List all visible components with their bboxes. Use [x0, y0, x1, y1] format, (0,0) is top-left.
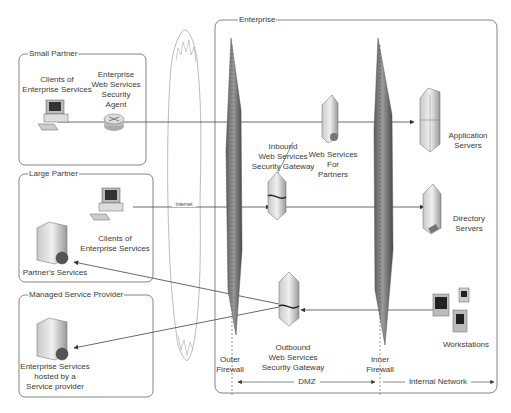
label-partners-services: Partner's Services: [20, 268, 90, 278]
group-title-managed-service-provider: Managed Service Provider: [28, 290, 124, 300]
desktop-computer-icon: [90, 188, 123, 220]
group-title-enterprise: Enterprise: [238, 15, 276, 25]
desktop-computer-icon: [38, 100, 68, 130]
edge-label-internet: Internet: [172, 201, 196, 207]
label-workstations: Workstations: [436, 340, 496, 350]
link-outbound-gw-to-msp: [74, 307, 279, 348]
label-inner-firewall: Inner Firewall: [362, 355, 398, 375]
security-gateway-icon: [268, 172, 286, 220]
label-small-partner-clients: Clients of Enterprise Services: [22, 75, 92, 95]
workstation-icon: [433, 288, 469, 332]
group-box-enterprise: [215, 20, 497, 393]
group-title-small-partner: Small Partner: [28, 49, 78, 59]
zone-label-dmz: DMZ: [294, 377, 320, 387]
label-web-services-for-partners: Web Services For Partners: [305, 150, 361, 180]
server-tower-icon: [420, 88, 440, 152]
label-msp-services: Enterprise Services hosted by a Service …: [18, 362, 92, 392]
label-directory-servers: Directory Servers: [447, 214, 491, 234]
router-icon: [104, 114, 124, 131]
outer-firewall-icon: [226, 38, 242, 395]
zone-label-internal-network: Internal Network: [405, 377, 471, 387]
group-title-large-partner: Large Partner: [28, 169, 79, 179]
server-tower-icon: [322, 95, 338, 143]
label-application-servers: Application Servers: [443, 131, 493, 151]
server-tower-icon: [37, 318, 68, 360]
label-outbound-gateway: Outbound Web Services Security Gateway: [255, 343, 331, 373]
label-outer-firewall: Outer Firewall: [212, 355, 248, 375]
server-tower-icon: [423, 184, 441, 234]
inner-firewall-icon: [374, 38, 393, 395]
server-tower-icon: [37, 222, 68, 264]
label-security-agent: Enterprise Web Services Security Agent: [90, 70, 142, 110]
cloud-top-detail: [176, 40, 196, 62]
internet-cloud-icon: [168, 30, 201, 361]
security-gateway-icon: [279, 272, 299, 326]
cloud-bottom-detail: [178, 335, 193, 355]
label-large-partner-clients: Clients of Enterprise Services: [80, 234, 150, 254]
